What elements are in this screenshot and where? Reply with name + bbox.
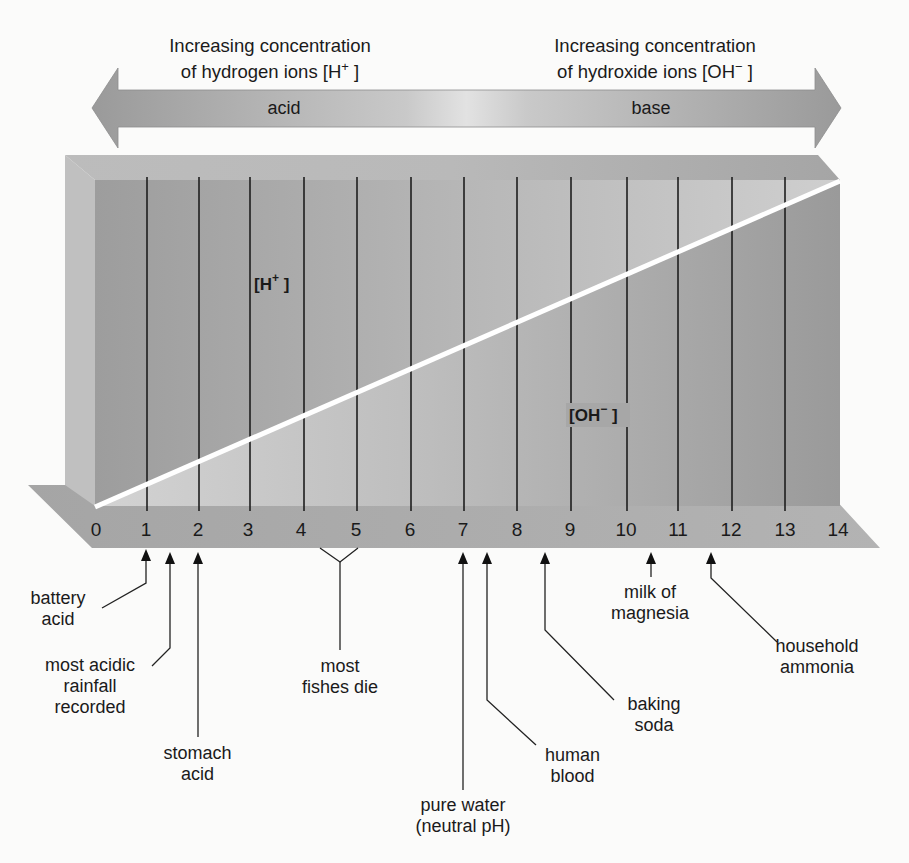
annotation-acidic-rainfall: most acidic rainfall recorded — [30, 655, 150, 718]
base-header-line2: of hydroxide ions [OH− ] — [510, 56, 800, 82]
tick-6: 6 — [395, 519, 425, 541]
annotation-milk-of-magnesia: milk of magnesia — [600, 582, 700, 624]
base-label: base — [616, 98, 686, 119]
tick-9: 9 — [555, 519, 585, 541]
tick-0: 0 — [81, 519, 111, 541]
tick-5: 5 — [341, 519, 371, 541]
acid-header-line2: of hydrogen ions [H+ ] — [150, 56, 390, 82]
h-ion-label: [H+ ] — [254, 272, 289, 295]
tick-11: 11 — [663, 519, 693, 541]
annotation-human-blood: human blood — [535, 745, 610, 787]
diagram-graphics — [0, 0, 909, 863]
base-header: Increasing concentration of hydroxide io… — [510, 35, 800, 82]
base-header-line1: Increasing concentration — [510, 35, 800, 56]
annotation-household-ammonia: household ammonia — [767, 636, 867, 678]
box-top-bevel — [65, 155, 840, 180]
annotation-baking-soda: baking soda — [619, 694, 689, 736]
acid-header-line1: Increasing concentration — [150, 35, 390, 56]
annotation-arrowheads — [141, 549, 716, 564]
tick-10: 10 — [611, 519, 641, 541]
tick-2: 2 — [183, 519, 213, 541]
tick-8: 8 — [502, 519, 532, 541]
acid-header: Increasing concentration of hydrogen ion… — [150, 35, 390, 82]
annotation-pure-water: pure water (neutral pH) — [403, 795, 523, 837]
tick-1: 1 — [131, 519, 161, 541]
annotation-fishes-die: most fishes die — [290, 656, 390, 698]
ph-scale-diagram: Increasing concentration of hydrogen ion… — [0, 0, 909, 863]
box-side-face — [65, 155, 95, 506]
annotation-battery-acid: battery acid — [18, 588, 98, 630]
tick-4: 4 — [286, 519, 316, 541]
tick-7: 7 — [448, 519, 478, 541]
tick-13: 13 — [770, 519, 800, 541]
oh-ion-label: [OH− ] — [569, 403, 618, 426]
annotation-stomach-acid: stomach acid — [155, 743, 240, 785]
tick-3: 3 — [233, 519, 263, 541]
tick-12: 12 — [716, 519, 746, 541]
tick-14: 14 — [823, 519, 853, 541]
acid-label: acid — [254, 98, 314, 119]
